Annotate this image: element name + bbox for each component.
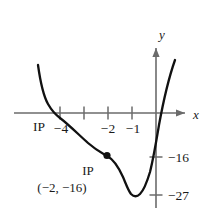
y-tick-label--27: −27 bbox=[168, 188, 189, 203]
x-axis-label: x bbox=[192, 107, 199, 122]
y-axis bbox=[150, 48, 163, 208]
y-axis-label: y bbox=[157, 27, 165, 42]
ip-annotation-label: IP bbox=[82, 163, 94, 178]
graph-figure: y x IP −4 −2 −1 −16 −27 IP (−2, −16) bbox=[0, 0, 210, 216]
y-axis-arrow-icon bbox=[152, 48, 159, 57]
function-graph-plot: y x IP −4 −2 −1 −16 −27 IP (−2, −16) bbox=[0, 0, 210, 216]
x-tick-label--2: −2 bbox=[101, 121, 115, 136]
ip-dot-marker bbox=[103, 152, 110, 159]
y-tick-label--16: −16 bbox=[168, 150, 189, 165]
x-tick-label--1: −1 bbox=[126, 121, 140, 136]
ip-label-left: IP bbox=[33, 119, 45, 134]
ip-annotation-coords: (−2, −16) bbox=[37, 180, 86, 195]
x-axis-arrow-icon bbox=[176, 109, 185, 116]
x-tick-label--4: −4 bbox=[54, 121, 69, 136]
